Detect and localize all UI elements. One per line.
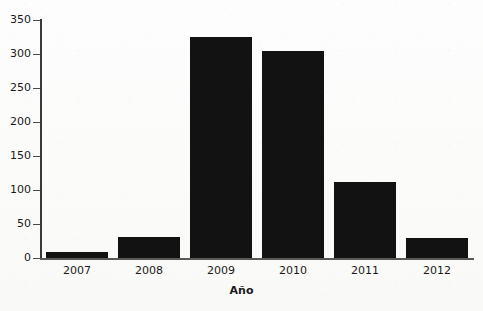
y-tick-label: 100 bbox=[0, 184, 31, 195]
x-tick-label-2011: 2011 bbox=[329, 265, 401, 276]
bar-2012 bbox=[406, 238, 468, 258]
x-axis-line bbox=[40, 258, 474, 260]
y-tick-label: 250 bbox=[0, 82, 31, 93]
bar-2007 bbox=[46, 252, 108, 258]
x-tick-label-2010: 2010 bbox=[257, 265, 329, 276]
y-tick-label: 200 bbox=[0, 116, 31, 127]
x-tick-label-2008: 2008 bbox=[113, 265, 185, 276]
bar-2008 bbox=[118, 237, 180, 258]
y-tick-label: 300 bbox=[0, 48, 31, 59]
x-tick-label-2012: 2012 bbox=[401, 265, 473, 276]
y-tick-label: 350 bbox=[0, 14, 31, 25]
y-tick-mark bbox=[33, 258, 40, 259]
x-tick-label-2007: 2007 bbox=[41, 265, 113, 276]
x-axis-title: Año bbox=[0, 284, 483, 297]
plot-area bbox=[41, 20, 473, 258]
bar-2010 bbox=[262, 51, 324, 258]
bar-2011 bbox=[334, 182, 396, 258]
y-tick-label: 0 bbox=[0, 252, 31, 263]
y-tick-mark bbox=[33, 122, 40, 123]
y-tick-mark bbox=[33, 54, 40, 55]
y-tick-mark bbox=[33, 190, 40, 191]
bar-2009 bbox=[190, 37, 252, 258]
y-tick-mark bbox=[33, 88, 40, 89]
y-tick-label: 50 bbox=[0, 218, 31, 229]
x-tick-label-2009: 2009 bbox=[185, 265, 257, 276]
y-tick-mark bbox=[33, 20, 40, 21]
y-tick-mark bbox=[33, 156, 40, 157]
y-tick-mark bbox=[33, 224, 40, 225]
bar-chart-figure: 050100150200250300350 200720082009201020… bbox=[0, 0, 483, 311]
y-tick-label: 150 bbox=[0, 150, 31, 161]
